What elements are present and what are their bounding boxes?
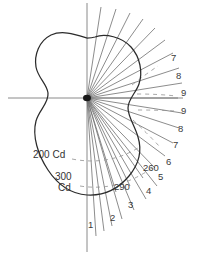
radial-line-20 xyxy=(87,98,112,226)
contour-label-200cd: 200 Cd xyxy=(33,150,65,160)
angle-label-6: 6 xyxy=(166,157,171,167)
angle-label-5: 5 xyxy=(158,172,163,182)
radial-line-2 xyxy=(87,68,179,98)
angle-label-7-upper: 7 xyxy=(171,53,176,63)
dashed-arcs-group xyxy=(72,66,176,187)
angle-label-9-upper: 9 xyxy=(181,88,186,98)
angle-label-1: 1 xyxy=(88,220,93,230)
polar-plot-svg xyxy=(0,0,198,269)
angle-label-8-lower: 8 xyxy=(178,124,183,134)
dashed-arc-right-upper xyxy=(137,94,176,96)
radial-line-5 xyxy=(87,28,155,98)
angle-label-4: 4 xyxy=(146,186,151,196)
radial-line-19 xyxy=(87,98,96,236)
radial-line-8 xyxy=(87,9,116,98)
polar-distribution-chart: 200 Cd 300 Cd 7 8 9 9 8 7 6 260 5 290 4 … xyxy=(0,0,198,269)
angle-label-7-lower: 7 xyxy=(173,140,178,150)
angle-label-290: 290 xyxy=(114,182,130,192)
origin-marker xyxy=(83,95,91,101)
contour-label-300-unit: Cd xyxy=(58,183,71,193)
angle-label-8-upper: 8 xyxy=(176,71,181,81)
origin-dot xyxy=(83,95,91,101)
angle-label-9-lower: 9 xyxy=(181,106,186,116)
angle-label-2: 2 xyxy=(110,213,115,223)
angle-label-3: 3 xyxy=(128,200,133,210)
contour-label-300: 300 xyxy=(55,172,72,182)
angle-label-260: 260 xyxy=(143,163,159,173)
radial-line-6 xyxy=(87,19,143,98)
